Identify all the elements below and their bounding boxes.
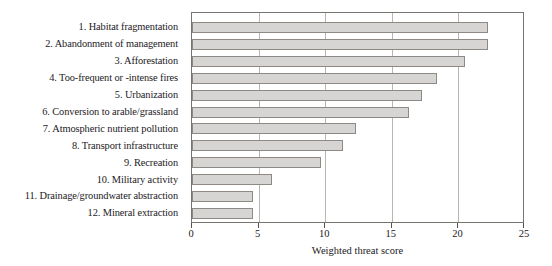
x-tick-label: 5 — [255, 228, 260, 239]
category-label: 4. Too-frequent or -intense fires — [0, 70, 184, 87]
x-tick-label: 0 — [188, 228, 193, 239]
x-tick-label: 15 — [386, 228, 397, 239]
category-label: 7. Atmospheric nutrient pollution — [0, 121, 184, 138]
category-label: 12. Mineral extraction — [0, 205, 184, 222]
x-tick-label: 20 — [452, 228, 463, 239]
plot-area — [191, 12, 524, 223]
category-label-column: 1. Habitat fragmentation2. Abandonment o… — [0, 19, 184, 222]
bar-row — [192, 19, 523, 36]
bar-row — [192, 53, 523, 70]
bar — [192, 73, 437, 84]
bar — [192, 157, 321, 168]
bar — [192, 39, 488, 50]
category-label: 10. Military activity — [0, 171, 184, 188]
bar-row — [192, 188, 523, 205]
category-label: 1. Habitat fragmentation — [0, 19, 184, 36]
bar — [192, 140, 343, 151]
x-axis-title: Weighted threat score — [191, 245, 524, 256]
bar — [192, 174, 272, 185]
category-label: 3. Afforestation — [0, 53, 184, 70]
bar-row — [192, 70, 523, 87]
bar-chart: 1. Habitat fragmentation2. Abandonment o… — [0, 0, 552, 266]
bar — [192, 90, 422, 101]
bar-row — [192, 87, 523, 104]
category-label: 8. Transport infrastructure — [0, 137, 184, 154]
x-tick-label: 25 — [519, 228, 530, 239]
category-label: 11. Drainage/groundwater abstraction — [0, 188, 184, 205]
bar-row — [192, 171, 523, 188]
bar-row — [192, 137, 523, 154]
x-tick-label: 10 — [319, 228, 330, 239]
bar — [192, 56, 465, 67]
category-label: 5. Urbanization — [0, 87, 184, 104]
bar-row — [192, 121, 523, 138]
bar — [192, 208, 253, 219]
bar-row — [192, 205, 523, 222]
bar-row — [192, 36, 523, 53]
x-axis: 0510152025 — [191, 223, 524, 230]
category-label: 2. Abandonment of management — [0, 36, 184, 53]
bar — [192, 107, 409, 118]
bar — [192, 22, 488, 33]
bar-row — [192, 154, 523, 171]
bar-row — [192, 104, 523, 121]
bar — [192, 123, 356, 134]
bar — [192, 191, 253, 202]
category-label: 6. Conversion to arable/grassland — [0, 104, 184, 121]
category-label: 9. Recreation — [0, 154, 184, 171]
bar-series — [192, 19, 523, 222]
